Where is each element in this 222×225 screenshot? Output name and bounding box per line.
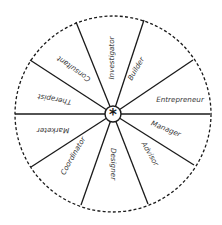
segment-label-therapist: Therapist [36,92,72,107]
segment-label-entrepreneur: Entrepreneur [156,95,205,104]
hub-asterisk-icon: * [109,106,117,124]
segment-label-advisor: Advisor [139,139,161,169]
segment-label-marketer: Marketer [36,126,69,135]
segment-label-designer: Designer [109,148,118,181]
spoke [113,60,193,114]
segment-label-manager: Manager [150,119,184,140]
wheel-diagram: * Investigator Builder Entrepreneur Mana… [0,0,222,225]
segment-label-investigator: Investigator [107,35,116,79]
spoke [81,114,113,205]
